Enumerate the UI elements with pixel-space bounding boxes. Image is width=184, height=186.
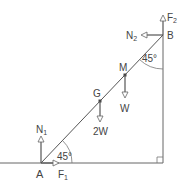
label-b: B (167, 30, 174, 41)
label-n1: N1 (36, 124, 47, 136)
label-a: A (36, 168, 44, 180)
label-f2: F2 (167, 12, 177, 24)
label-n2: N2 (126, 30, 137, 42)
right-angle-marker (157, 157, 163, 163)
f2-arrowhead-icon (160, 15, 166, 21)
w-arrowhead-icon (122, 92, 128, 98)
label-w: W (120, 103, 130, 114)
n2-arrowhead-icon (141, 32, 147, 38)
ladder-diagram: A B G M N1 F1 N2 F2 W 2W 45° 45° (0, 0, 184, 186)
label-f1: F1 (58, 169, 68, 181)
n1-arrowhead-icon (38, 136, 44, 142)
angle-label-a: 45° (57, 151, 72, 162)
label-g: G (93, 88, 101, 99)
label-2w: 2W (93, 126, 109, 137)
2w-arrowhead-icon (97, 116, 103, 122)
angle-label-b: 45° (142, 53, 157, 64)
label-m: M (119, 62, 127, 73)
